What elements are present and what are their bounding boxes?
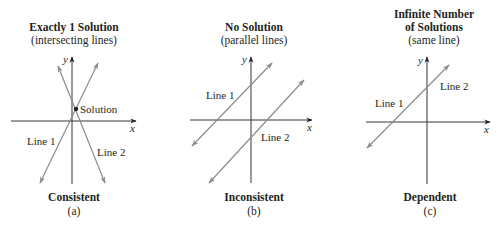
panel-a-classification: Consistent: [16, 190, 132, 204]
panel-b-graph: x y Line 1 Line 2: [190, 53, 312, 183]
panel-a-graph: x y Solution Line 1 Line 2: [11, 53, 136, 184]
panel-c-letter: (c): [372, 204, 488, 218]
panel-a-letter: (a): [16, 204, 132, 218]
panel-c-line-2-label: Line 2: [440, 80, 468, 92]
panel-c-caption: Dependent (c): [372, 190, 488, 218]
panel-c-x-label: x: [483, 123, 489, 135]
panel-b-line-1: [192, 63, 272, 146]
panel-b-line-1-label: Line 1: [206, 89, 234, 101]
panel-b-letter: (b): [196, 204, 312, 218]
panel-a-y-label: y: [62, 53, 68, 65]
panel-b-x-label: x: [306, 121, 312, 133]
panel-c-classification: Dependent: [372, 190, 488, 204]
panel-a-caption: Consistent (a): [16, 190, 132, 218]
panel-a-solution-label: Solution: [80, 103, 118, 115]
panel-b-caption: Inconsistent (b): [196, 190, 312, 218]
panel-c-graph: x y Line 1 Line 2: [366, 54, 490, 184]
panel-b-y-label: y: [241, 53, 247, 65]
panel-c-line-1-label: Line 1: [375, 97, 403, 109]
panel-b-line-2-label: Line 2: [261, 131, 289, 143]
panel-a-x-label: x: [129, 122, 135, 134]
panel-b-classification: Inconsistent: [196, 190, 312, 204]
panel-a-line-1: [40, 63, 98, 183]
panel-a-line-2-label: Line 2: [97, 146, 125, 158]
panel-a-solution-point: [74, 107, 78, 111]
panel-c-y-label: y: [417, 54, 423, 66]
panel-a-line-2: [58, 66, 105, 183]
panel-a-line-1-label: Line 1: [27, 135, 55, 147]
